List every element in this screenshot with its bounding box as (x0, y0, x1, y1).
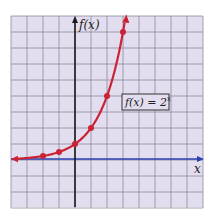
data-point (88, 125, 94, 131)
function-label-box: f(x) = 2x (122, 94, 171, 110)
svg-text:f(x) = 2x: f(x) = 2x (124, 95, 171, 109)
data-point (120, 29, 126, 35)
data-point (40, 153, 46, 159)
data-point (104, 93, 110, 99)
x-axis-label: x (194, 162, 201, 176)
exponential-function-graph: f(x) x f(x) = 2x (0, 0, 211, 216)
function-label-main: f(x) = 2 (124, 96, 167, 109)
function-label-exponent: x (167, 95, 171, 103)
data-point (72, 141, 78, 147)
y-axis-label: f(x) (78, 18, 100, 32)
data-point (56, 149, 62, 155)
